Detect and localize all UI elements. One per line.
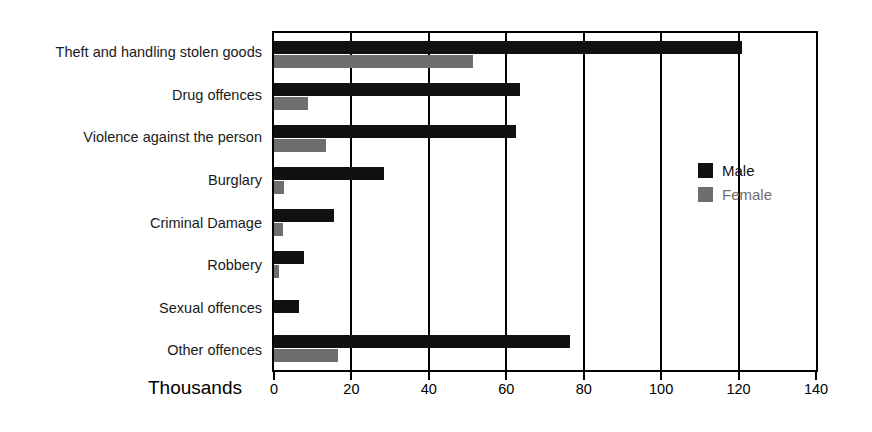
x-tick	[428, 372, 430, 380]
x-axis-title: Thousands	[148, 378, 242, 397]
x-tick	[815, 372, 817, 380]
category-row: Robbery	[0, 244, 268, 287]
bar-spacer	[274, 348, 816, 349]
category-label: Robbery	[207, 258, 262, 273]
x-tick-label: 80	[576, 382, 592, 397]
bar-spacer	[274, 313, 816, 314]
x-tick	[505, 372, 507, 380]
bar-spacer	[274, 264, 816, 265]
bar-spacer	[274, 222, 816, 223]
category-row: Violence against the person	[0, 116, 268, 159]
bar-male	[274, 335, 570, 348]
bar-group	[274, 244, 816, 286]
bar-female	[274, 55, 473, 68]
bar-group	[274, 33, 816, 75]
bar-male	[274, 83, 520, 96]
bar-group	[274, 117, 816, 159]
x-tick-label: 40	[421, 382, 437, 397]
bar-male	[274, 167, 384, 180]
legend-swatch-icon	[698, 187, 713, 202]
x-tick	[350, 372, 352, 380]
bar-female	[274, 223, 283, 236]
bar-female	[274, 181, 284, 194]
bar-male	[274, 251, 304, 264]
category-row: Theft and handling stolen goods	[0, 31, 268, 74]
category-label: Other offences	[167, 343, 262, 358]
x-tick-label: 20	[343, 382, 359, 397]
bar-spacer	[274, 138, 816, 139]
plot-inner: Male Female	[274, 33, 816, 370]
bar-female	[274, 97, 308, 110]
x-tick	[738, 372, 740, 380]
x-axis-ticks	[272, 372, 818, 380]
legend-label: Male	[722, 163, 755, 178]
category-label: Criminal Damage	[150, 216, 262, 231]
bar-group	[274, 75, 816, 117]
category-label: Burglary	[208, 173, 262, 188]
category-label: Sexual offences	[159, 301, 262, 316]
x-tick-label: 100	[649, 382, 673, 397]
x-tick	[273, 372, 275, 380]
x-tick-label: 120	[726, 382, 750, 397]
plot-area: Male Female	[272, 31, 818, 372]
legend-item-female: Female	[698, 182, 838, 206]
category-label: Violence against the person	[83, 130, 262, 145]
category-row: Criminal Damage	[0, 202, 268, 245]
bar-female	[274, 139, 326, 152]
x-axis-labels: 020406080100120140	[272, 382, 818, 404]
bar-chart: Theft and handling stolen goods Drug off…	[0, 0, 872, 432]
legend-label: Female	[722, 187, 772, 202]
category-label: Drug offences	[172, 88, 262, 103]
x-tick-label: 140	[804, 382, 828, 397]
bar-male	[274, 125, 516, 138]
bar-group	[274, 286, 816, 328]
x-tick-label: 60	[498, 382, 514, 397]
bar-male	[274, 41, 742, 54]
bar-male	[274, 209, 334, 222]
bar-male	[274, 300, 299, 313]
bar-group	[274, 202, 816, 244]
category-label: Theft and handling stolen goods	[56, 45, 262, 60]
category-row: Drug offences	[0, 74, 268, 117]
category-row: Sexual offences	[0, 287, 268, 330]
x-tick-label: 0	[270, 382, 278, 397]
bar-female	[274, 349, 338, 362]
bar-spacer	[274, 96, 816, 97]
chart-legend: Male Female	[698, 158, 838, 206]
legend-swatch-icon	[698, 163, 713, 178]
bar-female	[274, 265, 279, 278]
category-row: Burglary	[0, 159, 268, 202]
category-row: Other offences	[0, 329, 268, 372]
category-axis: Theft and handling stolen goods Drug off…	[0, 31, 268, 372]
x-tick	[660, 372, 662, 380]
legend-item-male: Male	[698, 158, 838, 182]
x-tick	[583, 372, 585, 380]
bar-group	[274, 328, 816, 370]
